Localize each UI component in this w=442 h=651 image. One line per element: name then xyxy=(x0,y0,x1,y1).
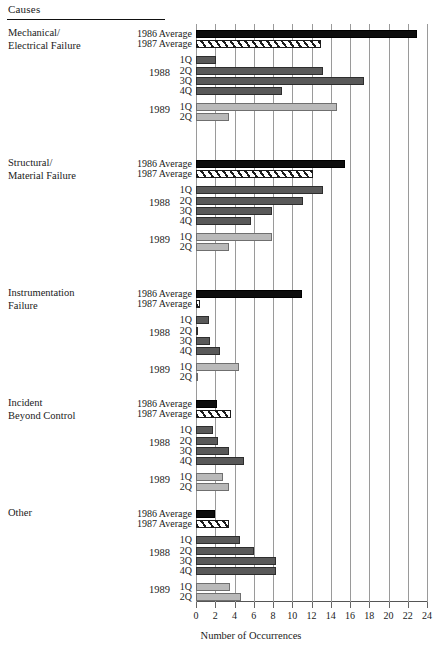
bar xyxy=(196,400,217,408)
gridline xyxy=(389,24,390,602)
row-label: 1987 Average xyxy=(137,299,192,309)
x-tick xyxy=(196,602,197,608)
x-tick xyxy=(215,602,216,608)
category-label-line: Mechanical/ xyxy=(8,27,128,40)
bar xyxy=(196,233,272,241)
row-label: 1987 Average xyxy=(137,39,192,49)
x-tick-label: 12 xyxy=(302,610,322,621)
category-label-line: Other xyxy=(8,507,128,520)
category-label: Structural/Material Failure xyxy=(8,157,128,182)
year-label-1988: 1988 xyxy=(149,67,170,78)
bar xyxy=(196,77,364,85)
row-label: 1Q xyxy=(180,425,192,435)
bar xyxy=(196,363,239,371)
bar xyxy=(196,56,216,64)
bar xyxy=(196,197,303,205)
x-axis-tick-labels: 024681012141618202224 xyxy=(150,610,442,624)
x-tick xyxy=(350,602,351,608)
x-tick xyxy=(254,602,255,608)
row-label: 4Q xyxy=(180,216,192,226)
bar xyxy=(196,207,272,215)
bar xyxy=(196,67,323,75)
x-tick-label: 18 xyxy=(359,610,379,621)
bar xyxy=(196,583,230,591)
row-label: 4Q xyxy=(180,86,192,96)
row-label: 1Q xyxy=(180,185,192,195)
category-label-line: Failure xyxy=(8,300,128,313)
bar xyxy=(196,473,223,481)
category-label-line: Structural/ xyxy=(8,157,128,170)
x-tick xyxy=(235,602,236,608)
x-tick-label: 22 xyxy=(398,610,418,621)
category-label: Other xyxy=(8,507,128,520)
year-label-1989: 1989 xyxy=(149,364,170,375)
bar xyxy=(196,113,229,121)
year-label-1988: 1988 xyxy=(149,197,170,208)
x-tick-label: 0 xyxy=(186,610,206,621)
x-tick-label: 2 xyxy=(205,610,225,621)
bar xyxy=(196,483,229,491)
bar xyxy=(196,593,241,601)
year-label-1988: 1988 xyxy=(149,547,170,558)
x-tick xyxy=(331,602,332,608)
x-tick-label: 16 xyxy=(340,610,360,621)
row-label: 4Q xyxy=(180,346,192,356)
x-tick xyxy=(312,602,313,608)
bar xyxy=(196,186,323,194)
gridline xyxy=(427,24,428,602)
chart-container: Causes 1986 Average1987 Average1Q2Q3Q4Q1… xyxy=(0,0,442,651)
row-label: 2Q xyxy=(180,592,192,602)
x-axis-title-text: Number of Occurrences xyxy=(201,630,302,641)
category-label: InstrumentationFailure xyxy=(8,287,128,312)
row-label: 2Q xyxy=(180,372,192,382)
gridline xyxy=(369,24,370,602)
plot-area xyxy=(196,24,427,602)
x-tick xyxy=(273,602,274,608)
bar xyxy=(196,437,218,445)
gridline xyxy=(350,24,351,602)
year-label-1988: 1988 xyxy=(149,327,170,338)
x-tick xyxy=(369,602,370,608)
category-label: Mechanical/Electrical Failure xyxy=(8,27,128,52)
x-tick xyxy=(292,602,293,608)
x-tick-label: 24 xyxy=(417,610,437,621)
x-axis-title: Number of Occurrences xyxy=(0,630,442,641)
row-label: 2Q xyxy=(180,112,192,122)
bar xyxy=(196,337,210,345)
row-label: 4Q xyxy=(180,566,192,576)
category-label-line: Incident xyxy=(8,397,128,410)
bar xyxy=(196,290,302,298)
row-label: 2Q xyxy=(180,482,192,492)
row-label: 2Q xyxy=(180,242,192,252)
year-label-1988: 1988 xyxy=(149,437,170,448)
category-label-line: Material Failure xyxy=(8,170,128,183)
bar xyxy=(196,536,240,544)
x-tick-label: 10 xyxy=(282,610,302,621)
bar xyxy=(196,103,337,111)
row-label: 1Q xyxy=(180,315,192,325)
row-label: 1987 Average xyxy=(137,409,192,419)
x-tick-label: 4 xyxy=(225,610,245,621)
category-label-line: Beyond Control xyxy=(8,410,128,423)
bar xyxy=(196,300,200,308)
x-tick xyxy=(408,602,409,608)
x-tick xyxy=(427,602,428,608)
gridline xyxy=(408,24,409,602)
bar xyxy=(196,30,417,38)
bar xyxy=(196,170,313,178)
year-label-1989: 1989 xyxy=(149,104,170,115)
category-label-line: Electrical Failure xyxy=(8,40,128,53)
bar xyxy=(196,410,231,418)
bar xyxy=(196,426,213,434)
row-label: 1Q xyxy=(180,55,192,65)
bar xyxy=(196,447,229,455)
row-label: 1987 Average xyxy=(137,519,192,529)
x-axis-ticks xyxy=(196,602,427,610)
bar xyxy=(196,457,244,465)
bar xyxy=(196,217,251,225)
category-label-line: Instrumentation xyxy=(8,287,128,300)
bar xyxy=(196,327,198,335)
bar xyxy=(196,547,254,555)
x-tick-label: 20 xyxy=(379,610,399,621)
bar xyxy=(196,373,198,381)
